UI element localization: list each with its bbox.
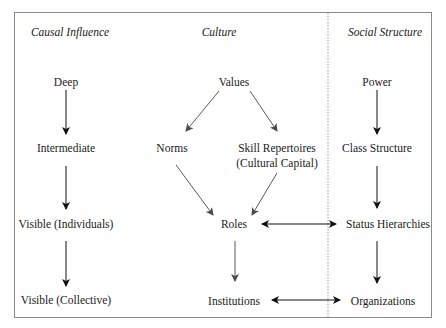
node-skill-repertoires: Skill Repertoires — [238, 142, 316, 155]
node-visible-individuals: Visible (Individuals) — [19, 218, 114, 231]
node-values: Values — [219, 76, 250, 89]
node-intermediate: Intermediate — [37, 142, 95, 155]
node-organizations: Organizations — [351, 295, 415, 308]
culture-structure-diagram: Causal Influence Culture Social Structur… — [0, 0, 446, 328]
node-roles: Roles — [221, 218, 247, 231]
node-class-structure: Class Structure — [342, 142, 412, 155]
node-status-hierarchies: Status Hierarchies — [346, 218, 430, 231]
node-institutions: Institutions — [208, 295, 260, 308]
node-norms: Norms — [156, 142, 187, 155]
node-power: Power — [362, 76, 391, 89]
node-deep: Deep — [54, 76, 78, 89]
arrows-layer — [0, 0, 446, 328]
header-causal-influence: Causal Influence — [31, 26, 109, 39]
node-visible-collective: Visible (Collective) — [21, 294, 111, 307]
node-cultural-capital: (Cultural Capital) — [236, 157, 317, 170]
header-social-structure: Social Structure — [348, 26, 422, 39]
arrow-norms-roles — [176, 165, 213, 215]
arrow-values-skill — [250, 91, 277, 131]
arrow-skill-roles — [252, 173, 277, 215]
arrow-values-norms — [186, 91, 219, 131]
header-culture: Culture — [202, 26, 237, 39]
